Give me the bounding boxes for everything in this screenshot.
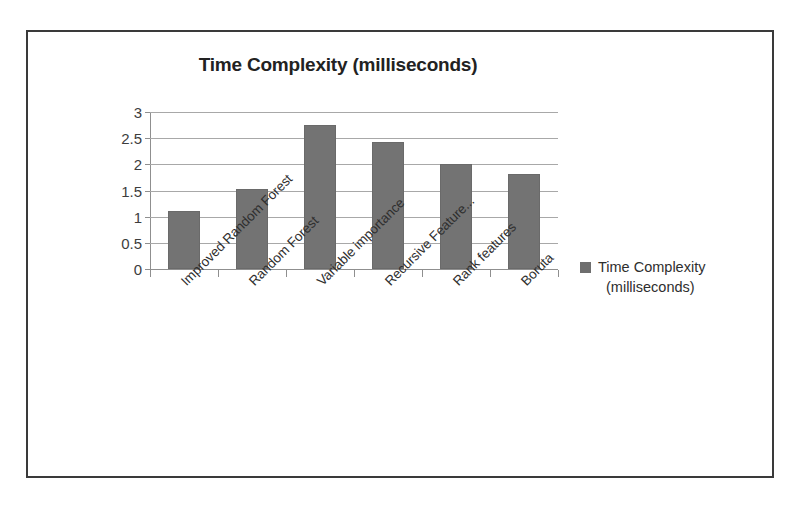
gridline-3 [150,112,558,113]
legend-label-line1: Time Complexity [598,259,705,275]
gridline-1 [150,217,558,218]
x-tick-mark-2 [286,270,287,277]
y-tick-label-2.5: 2.5 [102,130,142,147]
chart-legend: Time Complexity (milliseconds) [580,258,760,297]
y-tick-label-1.5: 1.5 [102,182,142,199]
x-tick-mark-4 [422,270,423,277]
x-tick-mark-0 [150,270,151,277]
x-tick-mark-6 [558,270,559,277]
legend-entry-time-complexity: Time Complexity (milliseconds) [598,258,728,297]
y-tick-label-0.5: 0.5 [102,234,142,251]
gridline-1.5 [150,191,558,192]
gridline-2 [150,164,558,165]
x-tick-mark-1 [218,270,219,277]
legend-label-line2: (milliseconds) [598,278,728,298]
x-tick-mark-5 [490,270,491,277]
gridline-2.5 [150,138,558,139]
y-axis-tick-labels: 3 2.5 2 1.5 1 0.5 0 [92,112,142,269]
chart-title: Time Complexity (milliseconds) [28,54,648,76]
square-marker-icon [580,262,591,273]
x-tick-mark-3 [354,270,355,277]
y-tick-label-2: 2 [102,156,142,173]
x-axis-category-labels: Improved Random Forest Random Forest Var… [150,278,620,428]
y-tick-label-3: 3 [102,104,142,121]
y-tick-label-0: 0 [102,261,142,278]
chart-frame: Time Complexity (milliseconds) 3 2.5 2 1… [26,30,774,478]
bar-boruta[interactable] [508,174,540,269]
bar-variable-importance[interactable] [304,125,336,269]
y-tick-label-1: 1 [102,208,142,225]
